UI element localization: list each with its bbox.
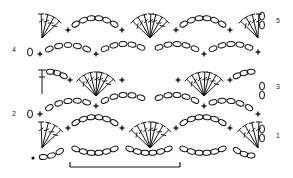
chain-stitch — [187, 16, 196, 24]
chain-stitch — [187, 115, 196, 122]
chain-stitch — [181, 93, 190, 100]
single-crochet — [256, 50, 261, 55]
chain-stitch — [71, 145, 80, 153]
chain-stitch — [55, 147, 64, 156]
single-crochet — [202, 52, 207, 57]
chain-stitch — [218, 20, 227, 29]
chain-stitch — [136, 94, 145, 101]
chain-stitch — [260, 134, 265, 142]
chain-stitch — [173, 41, 181, 46]
chain-stitch — [164, 92, 173, 98]
repeat-bracket — [70, 162, 180, 167]
chain-stitch — [110, 20, 119, 29]
chain-stitch — [164, 41, 173, 47]
chain-stitch — [141, 150, 149, 156]
chain-stitch — [71, 20, 80, 29]
chain-stitch — [95, 150, 103, 156]
single-crochet — [228, 126, 233, 131]
single-crochet — [38, 52, 43, 57]
chain-stitch — [109, 93, 118, 100]
chain-stitch — [28, 48, 33, 56]
chain-stitch — [173, 92, 181, 98]
chain-stitch — [182, 42, 191, 49]
chain-stitch — [110, 42, 119, 49]
chain-stitch — [102, 115, 111, 122]
chain-stitch — [203, 150, 211, 156]
chain-stitch — [235, 100, 244, 107]
chain-stitch — [100, 45, 109, 53]
chain-stitch — [210, 148, 219, 155]
chain-stitch — [210, 16, 219, 24]
chain-stitch — [82, 45, 91, 53]
chain-stitch — [154, 94, 163, 101]
chain-stitch — [95, 15, 104, 21]
chain-stitch — [102, 16, 111, 24]
chain-stitch — [110, 118, 119, 126]
chain-stitch — [244, 103, 253, 111]
chain-stitch — [45, 45, 54, 53]
single-crochet — [38, 112, 43, 117]
chain-stitch — [260, 91, 265, 99]
chain-stitch — [203, 114, 212, 120]
chain-stitch — [187, 148, 196, 155]
single-crochet — [174, 126, 179, 131]
chain-stitch — [136, 44, 145, 52]
chain-stitch — [244, 44, 253, 52]
chain-stitch — [82, 99, 91, 106]
chain-stitch — [110, 145, 119, 153]
single-crochet — [94, 52, 99, 57]
chain-stitch — [79, 148, 88, 155]
double-crochet — [144, 123, 150, 148]
chain-stitch — [79, 115, 88, 122]
single-crochet — [174, 28, 179, 33]
chain-stitch — [190, 45, 199, 53]
crochet-chart — [0, 0, 293, 178]
chain-stitch — [260, 82, 265, 90]
chain-stitch — [128, 41, 137, 47]
single-crochet — [228, 28, 233, 33]
chain-stitch — [210, 115, 219, 122]
chain-stitch — [87, 150, 95, 156]
chain-stitch — [179, 145, 188, 153]
chain-stitch — [100, 96, 109, 104]
chain-stitch — [164, 145, 173, 153]
chain-stitch — [47, 152, 56, 159]
chain-stitch — [156, 148, 165, 155]
single-crochet — [94, 104, 99, 109]
chain-stitch — [218, 98, 226, 104]
chain-stitch — [236, 41, 245, 47]
chain-stitch — [64, 98, 73, 104]
chain-stitch — [125, 145, 134, 153]
double-crochet — [258, 122, 259, 148]
chain-stitch — [190, 96, 199, 104]
chain-stitch — [218, 42, 227, 49]
chain-stitch — [208, 99, 217, 106]
double-crochet — [41, 122, 42, 148]
double-crochet — [42, 123, 48, 148]
single-crochet — [228, 78, 233, 83]
double-crochet — [252, 123, 258, 148]
chain-stitch — [54, 100, 63, 107]
chain-stitch — [149, 150, 157, 156]
chain-stitch — [227, 41, 235, 46]
chain-stitch — [119, 92, 127, 98]
chain-stitch — [87, 15, 96, 21]
single-crochet — [120, 28, 125, 33]
chain-stitch — [195, 114, 204, 120]
double-crochet — [41, 14, 42, 38]
single-crochet — [202, 104, 207, 109]
chain-stitch — [227, 98, 236, 104]
chain-stitch — [195, 150, 203, 156]
single-crochet — [66, 28, 71, 33]
single-crochet — [66, 126, 71, 131]
single-crochet — [256, 112, 261, 117]
chain-stitch — [128, 92, 137, 98]
chain-stitch — [260, 125, 265, 133]
chain-stitch — [73, 43, 82, 50]
chain-stitch — [73, 98, 81, 104]
chain-stitch — [79, 16, 88, 24]
slip-stitch — [31, 156, 34, 159]
chain-stitch — [87, 114, 96, 120]
chain-stitch — [39, 154, 47, 159]
single-crochet — [120, 78, 125, 83]
